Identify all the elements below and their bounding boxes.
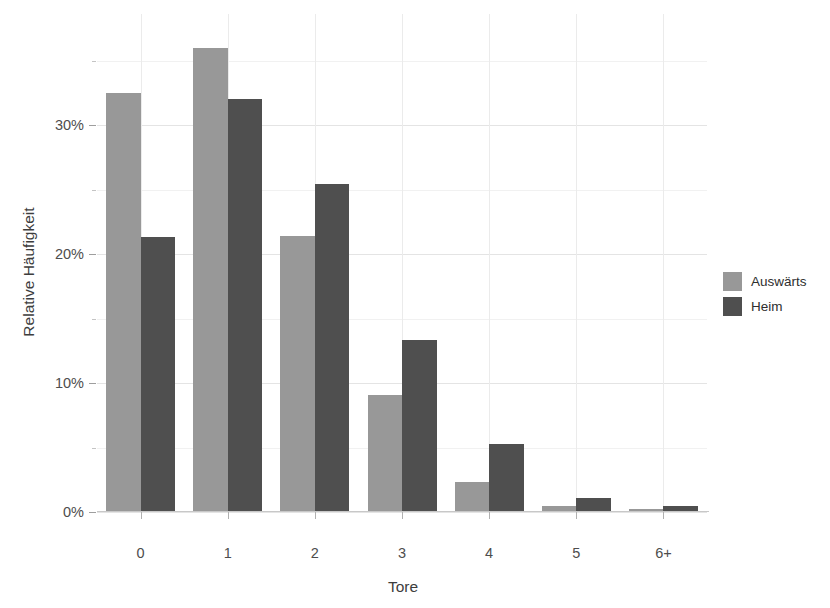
y-tick-label: 20% [55,247,84,262]
plot-area [97,14,707,512]
y-tick-label: 10% [55,376,84,391]
legend-label: Heim [751,299,783,314]
bar-heim-5 [576,498,611,512]
x-tick-mark [576,512,577,519]
x-tick-mark [489,512,490,519]
y-tick-mark [89,254,96,255]
bar-heim-0 [141,237,176,512]
chart-legend: AuswärtsHeim [723,269,827,319]
bar-heim-2 [315,184,350,512]
y-axis-tick-labels: 0%10%20%30% [0,0,84,608]
grid-line-vertical [663,14,664,512]
x-axis-line [97,511,709,512]
bar-ausw-rts-0 [106,93,141,512]
x-tick-mark [663,512,664,519]
x-tick-label: 2 [285,545,345,561]
x-tick-mark [228,512,229,519]
y-tick-label: 0% [63,505,84,520]
y-tick-mark [89,512,96,513]
x-tick-mark [315,512,316,519]
legend-swatch-icon [723,272,742,291]
legend-item-ausw-rts[interactable]: Auswärts [723,269,827,294]
y-tick-mark-minor [92,190,96,191]
x-tick-label: 6+ [633,545,693,561]
bar-ausw-rts-2 [280,236,315,512]
x-tick-label: 0 [111,545,171,561]
bar-ausw-rts-4 [455,482,490,512]
legend-label: Auswärts [751,274,807,289]
x-tick-mark [402,512,403,519]
x-tick-label: 3 [372,545,432,561]
bar-heim-3 [402,340,437,512]
legend-item-heim[interactable]: Heim [723,294,827,319]
y-tick-mark [89,125,96,126]
y-tick-mark-minor [92,61,96,62]
grid-line-vertical [576,14,577,512]
bar-heim-4 [489,444,524,512]
bar-ausw-rts-1 [193,48,228,512]
y-tick-mark-minor [92,448,96,449]
bar-ausw-rts-3 [368,395,403,512]
x-tick-mark [141,512,142,519]
x-tick-label: 1 [198,545,258,561]
x-tick-label: 4 [459,545,519,561]
y-axis-title: Relative Häufigkeit [20,92,38,452]
legend-swatch-icon [723,297,742,316]
grid-line-vertical [489,14,490,512]
x-axis-title: Tore [97,578,709,596]
y-tick-label: 30% [55,118,84,133]
x-tick-label: 5 [546,545,606,561]
y-tick-mark [89,383,96,384]
chart-screenshot: 0%10%20%30% Relative Häufigkeit 0123456+… [0,0,830,608]
bar-heim-1 [228,99,263,512]
y-tick-mark-minor [92,319,96,320]
